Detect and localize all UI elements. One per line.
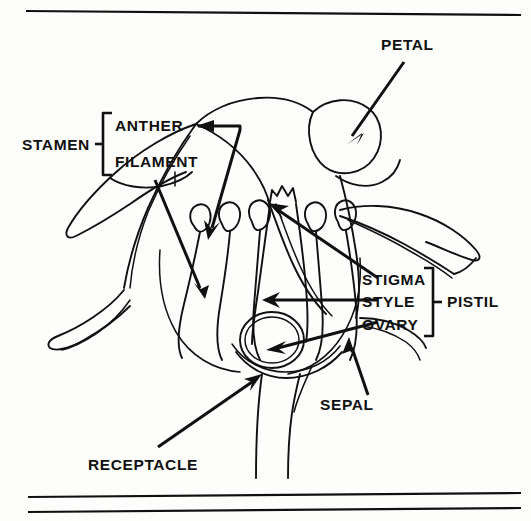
anther-5 bbox=[335, 200, 356, 230]
label-style: STYLE bbox=[362, 293, 415, 310]
rule-group bbox=[26, 11, 521, 512]
label-sepal: SEPAL bbox=[320, 396, 374, 413]
anther-4 bbox=[305, 202, 326, 231]
filament-leader bbox=[155, 180, 200, 288]
top-rule bbox=[26, 11, 521, 15]
left-sepal-outline bbox=[48, 290, 130, 350]
petal-arrowhead bbox=[346, 133, 364, 145]
ovary-outline bbox=[240, 312, 304, 368]
label-anther: ANTHER bbox=[115, 117, 183, 134]
label-stamen: STAMEN bbox=[22, 136, 90, 153]
stigma-leader bbox=[278, 210, 378, 278]
corolla-inner-left bbox=[160, 250, 240, 372]
stem-right-edge bbox=[288, 374, 300, 478]
filament-arrowhead bbox=[194, 283, 209, 299]
bottom-rule-upper bbox=[28, 493, 521, 497]
right-sepal-outline bbox=[340, 206, 479, 261]
flower-anatomy-diagram: PETAL STAMEN ANTHER FILAMENT STIGMA STYL… bbox=[0, 0, 531, 521]
label-receptacle: RECEPTACLE bbox=[88, 456, 198, 473]
stigma-outline bbox=[270, 186, 296, 202]
filament-2 bbox=[217, 232, 230, 360]
label-group: PETAL STAMEN ANTHER FILAMENT STIGMA STYL… bbox=[22, 36, 499, 473]
receptacle-leader bbox=[158, 382, 252, 447]
label-stigma: STIGMA bbox=[362, 271, 426, 288]
label-pistil: PISTIL bbox=[447, 293, 499, 310]
left-sepal-inner bbox=[62, 300, 130, 350]
leader-group bbox=[155, 62, 404, 447]
label-ovary: OVARY bbox=[362, 316, 418, 333]
anther-2 bbox=[219, 202, 240, 231]
stem-left-edge bbox=[256, 374, 262, 478]
label-filament: FILAMENT bbox=[115, 153, 198, 170]
figure-page: PETAL STAMEN ANTHER FILAMENT STIGMA STYL… bbox=[0, 0, 531, 521]
stamen-bracket bbox=[103, 113, 112, 175]
filament-1 bbox=[178, 232, 200, 358]
bottom-rule-lower bbox=[28, 508, 521, 512]
petal-leader bbox=[352, 62, 404, 136]
upper-petal-outline bbox=[196, 98, 313, 124]
upper-petal-lower-edge bbox=[196, 124, 270, 206]
label-petal: PETAL bbox=[381, 36, 434, 53]
ovary-inner-wall bbox=[245, 317, 299, 363]
